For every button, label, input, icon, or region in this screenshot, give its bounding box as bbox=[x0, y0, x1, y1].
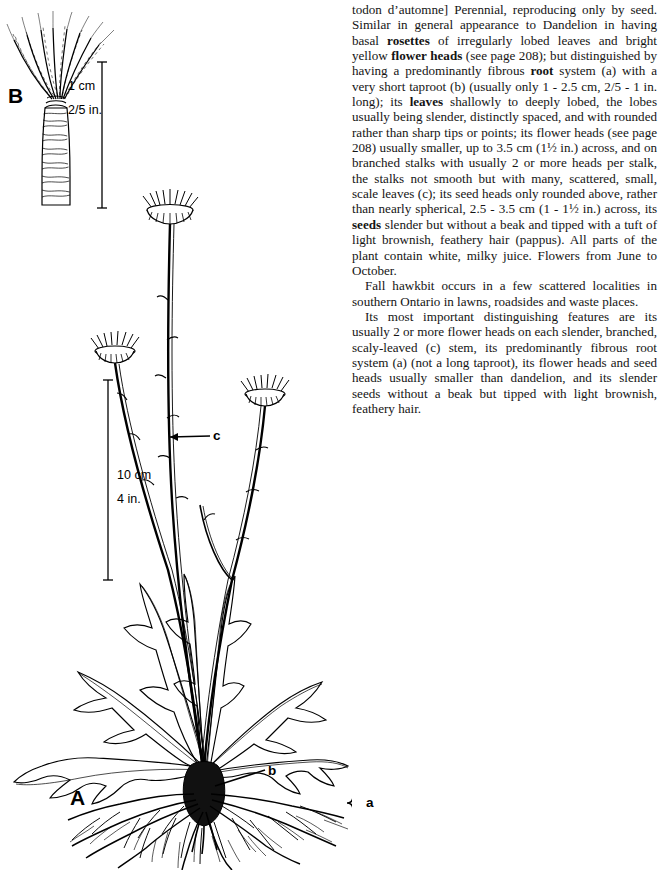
callout-label-c: c bbox=[213, 428, 221, 443]
scale-a-metric-label: 10 cm bbox=[117, 468, 151, 482]
plant-line-art bbox=[0, 0, 352, 870]
emphasis-term: flower heads bbox=[391, 48, 462, 63]
emphasis-term: leaves bbox=[410, 94, 443, 109]
emphasis-term: seeds bbox=[352, 217, 381, 232]
text-run: shallowly to deeply lobed, the lobes usu… bbox=[352, 94, 657, 216]
scale-b-imperial-label: 2/5 in. bbox=[68, 103, 102, 117]
emphasis-term: rosettes bbox=[387, 33, 430, 48]
figure-label-a: A bbox=[70, 786, 85, 810]
callout-label-b: b bbox=[268, 763, 276, 778]
illustration-plate: B A a b c 1 cm 2/5 in. 10 cm 4 in. bbox=[0, 0, 352, 870]
text-run: slender but without a beak and tipped wi… bbox=[352, 217, 657, 278]
description-paragraph: Fall hawkbit occurs in a few scattered l… bbox=[352, 278, 657, 309]
scale-a-imperial-label: 4 in. bbox=[117, 492, 141, 506]
emphasis-term: root bbox=[530, 63, 553, 78]
flower-head-right bbox=[241, 374, 289, 406]
callout-leader-c bbox=[170, 433, 210, 441]
callout-bracket-a bbox=[347, 772, 352, 834]
text-run: Its most important distinguishing featur… bbox=[352, 309, 657, 416]
scale-bar-b bbox=[97, 62, 107, 208]
scale-b-metric-label: 1 cm bbox=[68, 79, 95, 93]
text-run: Fall hawkbit occurs in a few scattered l… bbox=[352, 278, 657, 308]
flower-head-top bbox=[143, 189, 198, 224]
figure-label-b: B bbox=[8, 84, 23, 108]
description-paragraph: todon d’automne] Perennial, reproducing … bbox=[352, 2, 657, 278]
description-paragraph: Its most important distinguishing featur… bbox=[352, 309, 657, 416]
callout-label-a: a bbox=[366, 795, 374, 810]
description-text-column: todon d’automne] Perennial, reproducing … bbox=[352, 2, 657, 416]
scale-bar-a bbox=[103, 380, 113, 580]
flower-head-left bbox=[91, 331, 139, 363]
